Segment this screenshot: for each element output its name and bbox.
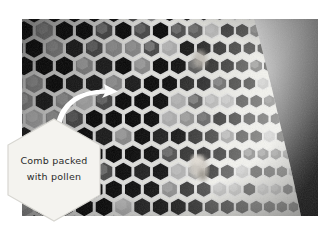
honeycomb-photograph xyxy=(22,19,318,216)
figure-container: Comb packed with pollen xyxy=(0,0,332,230)
honeycomb-photo-canvas xyxy=(22,19,318,216)
photo-grain xyxy=(22,19,318,216)
